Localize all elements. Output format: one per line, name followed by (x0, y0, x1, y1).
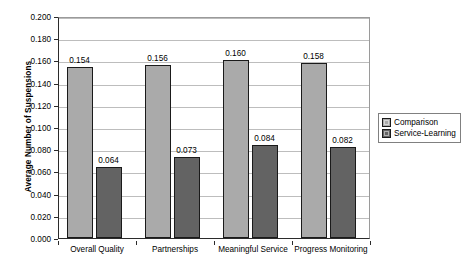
bar-value-label: 0.084 (245, 134, 285, 143)
x-axis-labels: Overall QualityPartnershipsMeaningful Se… (58, 241, 370, 259)
bar (252, 145, 278, 238)
y-tick-label: 0.040 (0, 190, 51, 199)
bar-chart: Average Number of Suspensions 0.0000.020… (0, 0, 462, 272)
x-tick-mark (58, 241, 59, 245)
bar (96, 167, 122, 238)
y-tick-label: 0.000 (0, 235, 51, 244)
y-tick-label: 0.160 (0, 57, 51, 66)
bar (223, 60, 249, 238)
legend-label: Comparison (394, 117, 438, 128)
bar (330, 147, 356, 238)
y-tick-label: 0.060 (0, 168, 51, 177)
bar (67, 67, 93, 238)
x-axis-category-label: Meaningful Service (218, 245, 288, 254)
x-axis-category-label: Overall Quality (70, 245, 124, 254)
legend-item[interactable]: Service-Learning (382, 128, 456, 139)
legend-label: Service-Learning (394, 128, 456, 139)
y-tick-label: 0.100 (0, 124, 51, 133)
x-tick-mark (136, 241, 137, 245)
bar-value-label: 0.160 (216, 49, 256, 58)
bar (301, 63, 327, 238)
bar-value-label: 0.073 (167, 146, 207, 155)
legend-item[interactable]: Comparison (382, 117, 456, 128)
plot-area: 0.1540.0640.1560.0730.1600.0840.1580.082 (58, 17, 370, 239)
legend-swatch-icon (382, 129, 391, 138)
y-tick-label: 0.140 (0, 79, 51, 88)
gridline (59, 40, 369, 41)
y-tick-label: 0.080 (0, 146, 51, 155)
bar-value-label: 0.154 (60, 56, 100, 65)
x-axis-category-label: Progress Monitoring (294, 245, 367, 254)
bar-value-label: 0.082 (323, 136, 363, 145)
chart-legend: ComparisonService-Learning (378, 113, 461, 143)
y-tick-label: 0.180 (0, 35, 51, 44)
x-tick-mark (370, 241, 371, 245)
y-tick-label: 0.120 (0, 101, 51, 110)
legend-swatch-icon (382, 118, 391, 127)
x-axis-category-label: Partnerships (152, 245, 198, 254)
bar (174, 157, 200, 238)
y-tick-label: 0.020 (0, 212, 51, 221)
bar-value-label: 0.064 (89, 156, 129, 165)
gridline (59, 18, 369, 19)
bar-value-label: 0.158 (294, 52, 334, 61)
y-tick-mark (54, 239, 58, 240)
bar-value-label: 0.156 (138, 54, 178, 63)
x-tick-mark (214, 241, 215, 245)
y-axis-ticks: 0.0000.0200.0400.0600.0800.1000.1200.140… (0, 17, 58, 239)
x-tick-mark (292, 241, 293, 245)
y-tick-label: 0.200 (0, 13, 51, 22)
